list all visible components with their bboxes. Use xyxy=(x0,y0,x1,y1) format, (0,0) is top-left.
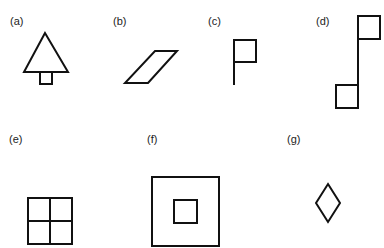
shape-f-nested-squares xyxy=(152,177,219,246)
shape-b-parallelogram xyxy=(125,51,177,83)
shape-e-divided-square xyxy=(28,198,72,244)
shape-c-flag xyxy=(234,40,256,85)
shape-d-pole-two-squares xyxy=(336,16,380,108)
figure-canvas xyxy=(0,0,384,248)
shape-a-triangle-tree xyxy=(24,33,68,84)
shape-g-diamond xyxy=(316,184,340,222)
